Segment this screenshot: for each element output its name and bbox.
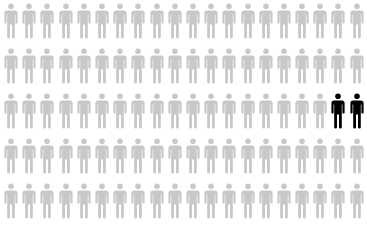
- person-other: [311, 93, 329, 138]
- person-icon: [58, 183, 74, 219]
- person-other: [93, 183, 111, 225]
- pictogram-grid: [2, 3, 366, 225]
- person-other: [238, 48, 256, 93]
- person-icon: [167, 3, 183, 39]
- person-other: [329, 3, 347, 48]
- person-icon: [21, 3, 37, 39]
- person-icon: [76, 48, 92, 84]
- person-other: [166, 3, 184, 48]
- person-other: [20, 48, 38, 93]
- person-other: [311, 48, 329, 93]
- person-other: [184, 48, 202, 93]
- person-other: [93, 48, 111, 93]
- person-other: [111, 183, 129, 225]
- person-icon: [330, 93, 346, 129]
- person-icon: [3, 183, 19, 219]
- person-other: [220, 138, 238, 183]
- person-icon: [167, 138, 183, 174]
- person-icon: [240, 183, 256, 219]
- person-other: [129, 93, 147, 138]
- person-icon: [349, 3, 365, 39]
- person-other: [2, 183, 20, 225]
- person-icon: [258, 138, 274, 174]
- person-other: [148, 93, 166, 138]
- person-icon: [294, 138, 310, 174]
- person-icon: [349, 48, 365, 84]
- person-other: [184, 183, 202, 225]
- person-highlighted: [348, 93, 366, 138]
- person-other: [57, 183, 75, 225]
- person-other: [2, 48, 20, 93]
- person-icon: [349, 93, 365, 129]
- person-other: [329, 138, 347, 183]
- person-other: [257, 183, 275, 225]
- person-icon: [94, 138, 110, 174]
- person-other: [184, 93, 202, 138]
- person-icon: [276, 183, 292, 219]
- person-other: [348, 183, 366, 225]
- person-icon: [149, 48, 165, 84]
- person-other: [129, 183, 147, 225]
- person-icon: [203, 93, 219, 129]
- person-icon: [112, 138, 128, 174]
- person-icon: [130, 93, 146, 129]
- person-other: [275, 93, 293, 138]
- person-other: [293, 48, 311, 93]
- person-icon: [149, 183, 165, 219]
- person-other: [329, 183, 347, 225]
- person-other: [184, 3, 202, 48]
- person-icon: [94, 93, 110, 129]
- person-other: [129, 48, 147, 93]
- person-icon: [76, 93, 92, 129]
- person-other: [57, 93, 75, 138]
- person-other: [111, 93, 129, 138]
- person-icon: [76, 3, 92, 39]
- person-other: [38, 3, 56, 48]
- person-other: [111, 3, 129, 48]
- person-icon: [349, 183, 365, 219]
- person-other: [311, 183, 329, 225]
- person-icon: [112, 183, 128, 219]
- person-icon: [258, 93, 274, 129]
- person-icon: [58, 138, 74, 174]
- person-icon: [94, 3, 110, 39]
- person-other: [257, 138, 275, 183]
- person-icon: [39, 93, 55, 129]
- person-other: [38, 138, 56, 183]
- person-icon: [221, 183, 237, 219]
- person-icon: [312, 138, 328, 174]
- person-other: [75, 48, 93, 93]
- person-other: [275, 138, 293, 183]
- person-icon: [276, 48, 292, 84]
- person-other: [293, 93, 311, 138]
- person-other: [111, 48, 129, 93]
- person-icon: [76, 138, 92, 174]
- person-icon: [21, 93, 37, 129]
- person-icon: [294, 48, 310, 84]
- person-other: [238, 93, 256, 138]
- person-other: [20, 138, 38, 183]
- person-other: [257, 93, 275, 138]
- person-other: [257, 48, 275, 93]
- person-other: [166, 183, 184, 225]
- person-other: [293, 3, 311, 48]
- person-icon: [112, 48, 128, 84]
- person-icon: [203, 138, 219, 174]
- person-icon: [294, 93, 310, 129]
- person-other: [2, 138, 20, 183]
- person-other: [75, 183, 93, 225]
- person-icon: [276, 3, 292, 39]
- person-other: [238, 3, 256, 48]
- person-other: [38, 183, 56, 225]
- person-other: [75, 3, 93, 48]
- person-icon: [240, 48, 256, 84]
- person-icon: [221, 3, 237, 39]
- person-icon: [130, 48, 146, 84]
- person-other: [220, 48, 238, 93]
- person-icon: [276, 93, 292, 129]
- person-other: [311, 3, 329, 48]
- person-other: [202, 3, 220, 48]
- person-other: [148, 48, 166, 93]
- person-icon: [330, 183, 346, 219]
- person-other: [329, 48, 347, 93]
